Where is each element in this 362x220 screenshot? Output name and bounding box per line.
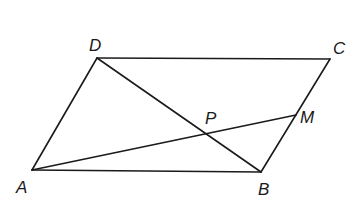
side-ab bbox=[32, 170, 261, 172]
segment-am bbox=[32, 115, 296, 170]
label-c: C bbox=[333, 39, 346, 58]
label-m: M bbox=[300, 108, 315, 127]
side-cd bbox=[97, 58, 330, 59]
diagonal-db bbox=[97, 58, 261, 172]
label-p: P bbox=[205, 109, 217, 128]
label-b: B bbox=[258, 180, 269, 199]
geometry-diagram: A B C D M P bbox=[0, 0, 362, 220]
label-a: A bbox=[15, 178, 27, 197]
label-d: D bbox=[89, 36, 101, 55]
side-da bbox=[32, 58, 97, 170]
